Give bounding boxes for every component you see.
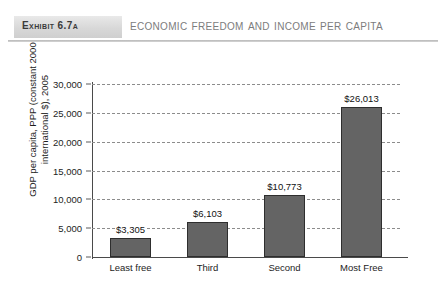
bar-value-label: $26,013 [343, 93, 379, 104]
header-divider [8, 40, 438, 42]
bar-chart: GDP per capita, PPP (constant 2000 inter… [0, 46, 446, 282]
x-axis-category-label: Most Free [340, 262, 383, 273]
x-axis-category-label: Least free [109, 262, 151, 273]
gridline [92, 84, 400, 85]
x-axis-category-label: Second [268, 262, 300, 273]
x-axis-category-label: Third [197, 262, 219, 273]
gridline [92, 257, 400, 258]
y-axis-tick-label: 25,000 [53, 107, 82, 118]
bar-value-label: $6,103 [192, 208, 223, 219]
y-axis-tick-label: 5,000 [58, 223, 82, 234]
y-axis-tick-mark [86, 141, 91, 142]
y-axis-tick-mark [86, 170, 91, 171]
exhibit-title: Economic Freedom and Income per Capita [130, 17, 383, 33]
exhibit-header: Exhibit 6.7A Economic Freedom and Income… [0, 16, 446, 40]
bar[interactable] [110, 238, 151, 257]
y-axis-tick-label: 10,000 [53, 194, 82, 205]
y-axis-tick-labels: 05,00010,00015,00020,00025,00030,000 [34, 46, 86, 282]
x-axis-category-labels: Least freeThirdSecondMost Free [92, 260, 400, 280]
y-axis-tick-mark [86, 199, 91, 200]
y-axis-tick-label: 0 [77, 252, 82, 263]
y-axis-tick-label: 20,000 [53, 136, 82, 147]
y-axis-tick-mark [86, 257, 91, 258]
y-axis-tick-mark [86, 112, 91, 113]
bar[interactable] [187, 222, 228, 257]
plot-area: $3,305$6,103$10,773$26,013 [92, 84, 400, 257]
y-axis-tick-label: 30,000 [53, 79, 82, 90]
bar-value-label: $3,305 [115, 224, 146, 235]
y-axis-tick-mark [86, 228, 91, 229]
bar-value-label: $10,773 [266, 181, 302, 192]
y-axis-tick-mark [86, 84, 91, 85]
bar[interactable] [341, 107, 382, 257]
y-axis-tick-label: 15,000 [53, 165, 82, 176]
bar[interactable] [264, 195, 305, 257]
